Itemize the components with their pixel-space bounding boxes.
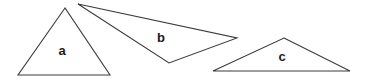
triangle-c-label: c <box>278 49 285 64</box>
triangle-a-label: a <box>58 43 66 58</box>
triangles-svg: a b c <box>0 0 372 80</box>
triangles-figure: a b c <box>0 0 372 80</box>
triangle-b-label: b <box>157 30 165 45</box>
